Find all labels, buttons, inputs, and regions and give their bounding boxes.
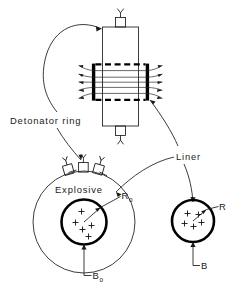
cylinder-body [103,27,139,126]
leader-cylinder-to-liner [150,100,178,146]
field-initial-indicator [81,245,91,276]
bottom-end-cap [116,126,126,136]
figure-page: Detonator ring Liner [0,0,236,295]
explosive-label: Explosive [55,184,103,195]
cylinder-assembly [79,9,163,145]
flux-compression-generator-diagram: Detonator ring Liner [0,0,236,295]
field-initial-label-group: B o [93,270,104,283]
field-final-label: B [201,260,208,271]
radius-initial-subscript: o [129,196,133,203]
ring-wire-arrowheads-left [79,65,85,99]
radius-final-label: R [219,201,226,212]
top-antenna-right-icon [121,9,124,13]
field-plus-marks-final [182,211,205,230]
radius-initial-indicator [84,207,101,222]
radius-initial-label: R [122,190,129,201]
ring-internal-lines [94,71,147,94]
liner-label: Liner [176,151,201,162]
leader-arrowhead-liner-top [150,100,156,105]
bottom-antenna-left-icon [118,140,121,144]
top-antenna-left-icon [117,9,120,13]
leader-liner-to-right-circle [184,164,196,202]
detonator-ring-label: Detonator ring [10,115,81,126]
leader-arrowhead-to-cylinder [96,26,102,31]
field-initial-subscript: o [100,276,104,283]
bottom-antenna-right-icon [121,140,124,144]
explosive-assembly: Explosive R o [33,154,135,282]
compressed-liner-assembly: R B [172,200,226,271]
radius-final-indicator [193,210,207,222]
ring-wire-arrowheads-right [157,65,163,99]
top-end-cap [116,18,126,28]
radius-initial-leader [101,197,121,208]
leader-detonator-ring-to-left-circle [57,128,84,160]
field-initial-label: B [93,270,100,281]
field-final-indicator [190,242,200,266]
field-plus-marks-initial [73,209,95,240]
